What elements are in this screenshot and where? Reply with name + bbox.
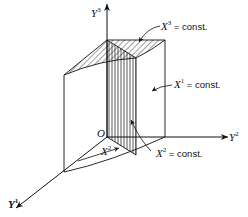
x2-const-label: X2 = const.	[156, 147, 202, 159]
y1-axis-label: Y1	[8, 198, 18, 210]
x1-leader	[152, 85, 172, 91]
base-arc	[64, 137, 165, 172]
origin-label: O	[97, 128, 105, 139]
y1-axis	[16, 137, 107, 208]
x3-const-label: X3 = const.	[161, 20, 207, 32]
coordinate-diagram	[0, 0, 248, 217]
y3-axis-label: Y3	[91, 7, 101, 19]
x2-surface	[107, 40, 136, 155]
angle-x2-label: X2	[101, 145, 111, 157]
y2-axis-label: Y2	[229, 131, 239, 143]
x1-const-label: X1 = const.	[174, 78, 220, 90]
